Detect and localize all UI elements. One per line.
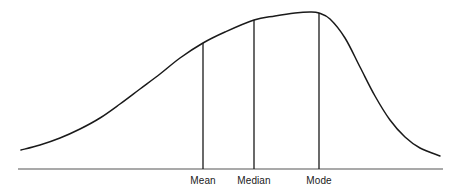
median-label: Median (237, 175, 270, 187)
distribution-plot (0, 0, 454, 196)
distribution-figure: Mean Median Mode (0, 0, 454, 196)
mean-label: Mean (190, 175, 215, 187)
distribution-curve (21, 12, 440, 156)
mode-label: Mode (306, 175, 331, 187)
